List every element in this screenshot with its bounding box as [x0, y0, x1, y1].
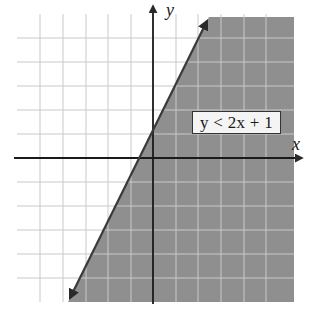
y-axis-label: y	[166, 0, 174, 21]
inequality-label: y < 2x + 1	[192, 111, 281, 134]
inequality-text: y < 2x + 1	[200, 113, 273, 133]
x-axis-label: x	[292, 134, 300, 155]
inequality-graph	[0, 0, 310, 324]
shaded-region	[68, 17, 294, 302]
